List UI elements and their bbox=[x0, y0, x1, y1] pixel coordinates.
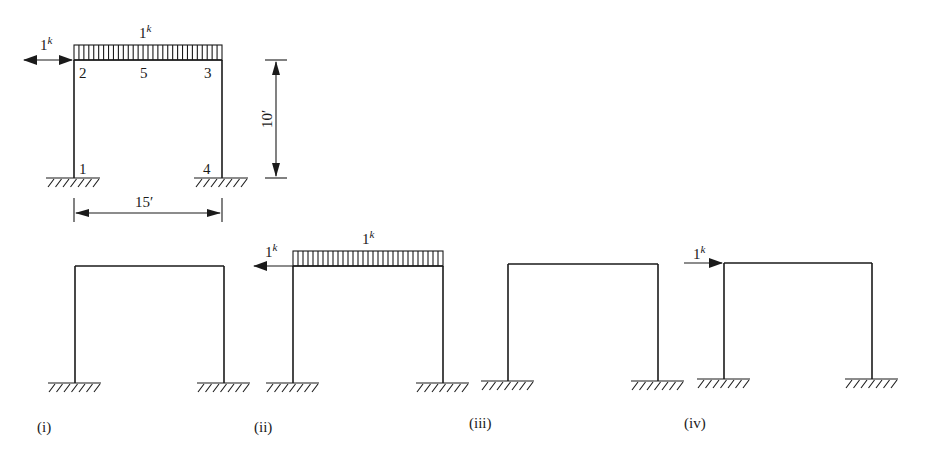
fixed-support bbox=[266, 383, 319, 392]
case-iii-caption: (iii) bbox=[469, 415, 492, 432]
fixed-support bbox=[197, 383, 250, 392]
fixed-support bbox=[48, 383, 101, 392]
node-2-label: 2 bbox=[79, 65, 87, 81]
node-3-label: 3 bbox=[204, 65, 212, 81]
fixed-support-left bbox=[46, 178, 100, 187]
distributed-load bbox=[74, 45, 222, 60]
distributed-load-label: 1k bbox=[139, 22, 153, 41]
distributed-load-label: 1k bbox=[362, 228, 376, 247]
fixed-support bbox=[845, 379, 898, 388]
node-1-label: 1 bbox=[79, 161, 87, 177]
horizontal-load-label: 1k bbox=[693, 243, 707, 262]
fixed-support-right bbox=[194, 178, 248, 187]
frame-diagram: 1k 1k 2 5 3 1 4 10′ bbox=[0, 0, 925, 464]
case-iv-frame: 1k (iv) bbox=[684, 243, 898, 432]
case-iii-frame: (iii) bbox=[469, 264, 684, 432]
fixed-support bbox=[697, 379, 750, 388]
case-ii-caption: (ii) bbox=[254, 419, 272, 436]
node-5-label: 5 bbox=[140, 65, 148, 81]
main-frame: 1k 1k 2 5 3 1 4 10′ bbox=[24, 22, 287, 222]
distributed-load bbox=[293, 251, 443, 266]
span-dimension-label: 15′ bbox=[135, 194, 153, 210]
height-dimension-label: 10′ bbox=[259, 110, 275, 128]
fixed-support bbox=[631, 381, 684, 390]
fixed-support bbox=[416, 383, 469, 392]
case-ii-frame: 1k 1k (ii) bbox=[254, 228, 469, 436]
fixed-support bbox=[481, 381, 534, 390]
horizontal-load-label: 1k bbox=[265, 241, 279, 260]
case-iv-caption: (iv) bbox=[684, 415, 706, 432]
horizontal-load-label: 1k bbox=[40, 34, 54, 53]
case-i-caption: (i) bbox=[37, 419, 51, 436]
case-i-frame: (i) bbox=[37, 266, 250, 436]
node-4-label: 4 bbox=[203, 161, 211, 177]
